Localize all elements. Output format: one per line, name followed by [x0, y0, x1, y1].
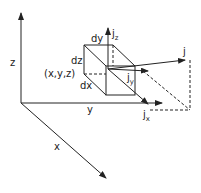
point-label: (x,y,z)	[44, 68, 75, 79]
vectors	[108, 28, 190, 110]
x-axis-label: x	[54, 141, 60, 152]
j-label: j	[182, 46, 186, 57]
x-axis	[21, 103, 106, 178]
j-vector	[108, 60, 185, 69]
jy-vector	[108, 69, 148, 71]
vector-diagram: z y x dy dz (x,y,z) dx jz j jy jx	[0, 0, 201, 193]
y-axis-label: y	[87, 104, 93, 115]
dy-label: dy	[91, 33, 103, 44]
jy-label: jy	[126, 72, 134, 86]
z-axis-label: z	[10, 57, 15, 68]
dx-label: dx	[80, 80, 92, 91]
dz-label: dz	[71, 55, 83, 66]
jx-label: jx	[142, 109, 150, 123]
jz-label: jz	[111, 28, 119, 42]
